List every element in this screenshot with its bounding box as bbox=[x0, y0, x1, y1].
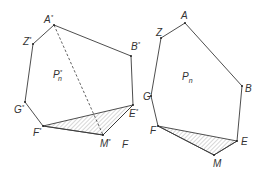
label-G-star: G* bbox=[14, 104, 25, 115]
label-Z: Z bbox=[155, 27, 163, 38]
right-hatched-triangle bbox=[158, 126, 237, 155]
left-extra-label-F: F bbox=[122, 139, 129, 150]
label-F: F bbox=[150, 125, 157, 136]
label-M-star: M* bbox=[100, 138, 111, 149]
label-B: B bbox=[245, 83, 252, 94]
label-B-star: B* bbox=[131, 41, 141, 52]
right-polygon: A B E M F G Z Pn bbox=[143, 10, 252, 169]
label-M: M bbox=[213, 158, 222, 169]
label-E-star: E* bbox=[129, 108, 139, 119]
left-polygon: A* B* E* M* F* G* Z* P*n F bbox=[14, 14, 141, 150]
label-A-star: A* bbox=[43, 14, 54, 25]
label-F-star: F* bbox=[33, 127, 42, 138]
label-G: G bbox=[143, 91, 151, 102]
label-Z-star: Z* bbox=[22, 36, 32, 47]
polygon-diagram: A* B* E* M* F* G* Z* P*n F A B E M F G Z… bbox=[0, 0, 268, 174]
left-hatched-triangle bbox=[43, 105, 133, 135]
left-region-label: P*n bbox=[53, 69, 63, 82]
right-region-label: Pn bbox=[182, 71, 193, 84]
label-E: E bbox=[241, 136, 248, 147]
label-A: A bbox=[180, 10, 188, 21]
